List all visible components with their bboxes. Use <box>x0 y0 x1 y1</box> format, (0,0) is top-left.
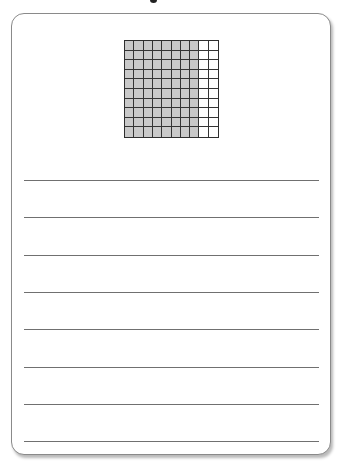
answer-lines <box>12 14 330 454</box>
answer-line <box>24 180 319 181</box>
answer-line <box>24 292 319 293</box>
answer-line <box>24 255 319 256</box>
answer-line <box>24 329 319 330</box>
answer-line <box>24 441 319 442</box>
cropped-title-fragment <box>150 0 157 3</box>
answer-line <box>24 217 319 218</box>
answer-line <box>24 367 319 368</box>
worksheet-card <box>11 13 331 455</box>
answer-line <box>24 404 319 405</box>
